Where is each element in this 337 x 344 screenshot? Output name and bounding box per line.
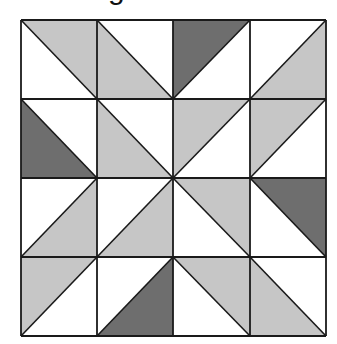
quilt-cell [21,178,97,257]
quilt-cell [173,257,250,336]
quilt-cell [173,178,250,257]
quilt-cell [250,257,326,336]
quilt-cell [97,99,173,178]
quilt-cell [97,257,173,336]
quilt-cell [250,178,326,257]
quilt-cell [250,99,326,178]
quilt-cell [250,20,326,99]
quilt-cell [21,257,97,336]
quilt-block-diagram [0,0,337,344]
quilt-cell [21,20,97,99]
quilt-cell [21,99,97,178]
quilt-cell [97,178,173,257]
quilt-cell [173,99,250,178]
quilt-cell [173,20,250,99]
quilt-cell [97,20,173,99]
